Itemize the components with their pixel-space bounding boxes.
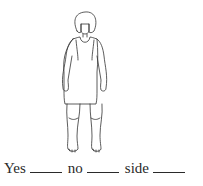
neck xyxy=(83,34,87,37)
yes-blank[interactable] xyxy=(30,160,62,173)
answer-line: Yes no side xyxy=(4,160,203,182)
right-leg xyxy=(90,104,102,151)
right-arm xyxy=(97,39,107,91)
side-label: side xyxy=(125,160,149,177)
side-blank[interactable] xyxy=(153,160,185,173)
left-leg xyxy=(67,104,80,151)
no-label: no xyxy=(68,160,83,177)
dress xyxy=(64,37,98,104)
face xyxy=(81,24,89,34)
no-blank[interactable] xyxy=(87,160,119,173)
yes-label: Yes xyxy=(4,160,26,177)
hair xyxy=(75,12,96,33)
girl-illustration xyxy=(0,0,203,160)
